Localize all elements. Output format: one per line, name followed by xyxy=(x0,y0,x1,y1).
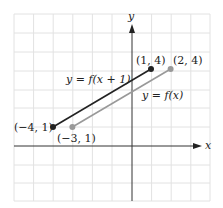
label-shifted-curve: y = f(x + 1) xyxy=(65,73,131,86)
x-axis xyxy=(14,143,202,149)
label-neg4-1: (−4, 1) xyxy=(14,121,53,134)
x-axis-label: x xyxy=(205,139,212,152)
graph: x y (−4, 1) (1, 4) (−3, 1) (2, 4) y = f(… xyxy=(0,0,223,208)
label-1-4: (1, 4) xyxy=(136,54,166,67)
y-axis-label: y xyxy=(127,10,135,23)
point-neg3-1 xyxy=(69,124,75,130)
label-neg3-1: (−3, 1) xyxy=(57,132,96,145)
grid xyxy=(14,14,210,201)
label-2-4: (2, 4) xyxy=(173,54,203,67)
y-axis xyxy=(129,24,135,201)
label-original-curve: y = f(x) xyxy=(141,89,183,102)
